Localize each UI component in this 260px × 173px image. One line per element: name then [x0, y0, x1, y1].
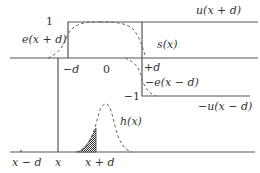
tick-x: x — [55, 156, 62, 169]
e-plus-label: e(x + d) — [22, 33, 67, 46]
s-label: s(x) — [157, 38, 177, 51]
tick-zero: 0 — [103, 63, 110, 76]
e-minus-label: −e(x − d) — [145, 76, 199, 89]
upper-plot: 1 e(x + d) s(x) u(x + d) −d 0 +d −e(x − … — [10, 4, 258, 152]
level-minus-one-label: −1 — [124, 90, 140, 103]
tick-minus-d: −d — [63, 63, 79, 76]
h-curve — [76, 104, 132, 152]
u-plus-label: u(x + d) — [196, 4, 241, 17]
diagram-canvas: 1 e(x + d) s(x) u(x + d) −d 0 +d −e(x − … — [0, 0, 260, 173]
lower-plot: h(x) x − d x x + d — [10, 104, 255, 169]
h-label: h(x) — [120, 115, 142, 128]
tick-plus-d: +d — [144, 61, 160, 74]
u-minus-label: −u(x − d) — [198, 100, 252, 113]
tick-x-minus-d: x − d — [12, 156, 41, 169]
s-curve-upper — [100, 22, 146, 58]
tick-x-plus-d: x + d — [85, 156, 114, 169]
level-one-label: 1 — [46, 15, 53, 28]
